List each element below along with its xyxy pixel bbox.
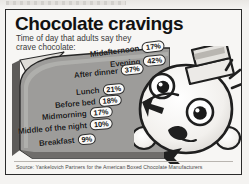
cartoon-face-icon	[134, 46, 242, 164]
scan-smudge	[6, 1, 126, 5]
value-badge: 10%	[89, 118, 113, 131]
infographic-page: Chocolate cravings Time of day that adul…	[0, 0, 249, 184]
source-divider	[14, 161, 233, 162]
value-badge: 17%	[89, 106, 113, 119]
scan-artifact-top	[0, 0, 249, 9]
page-title: Chocolate cravings	[15, 14, 183, 34]
value-badge: 9%	[77, 133, 97, 146]
category-label: After dinner	[74, 66, 119, 80]
chart-panel: Chocolate cravings Time of day that adul…	[5, 9, 242, 175]
category-label: Breakfast	[39, 136, 75, 148]
value-badge: 21%	[102, 83, 126, 96]
source-note: Source: Yankelovich Partners for the Ame…	[16, 164, 202, 170]
table-row: Breakfast 9%	[39, 133, 97, 149]
